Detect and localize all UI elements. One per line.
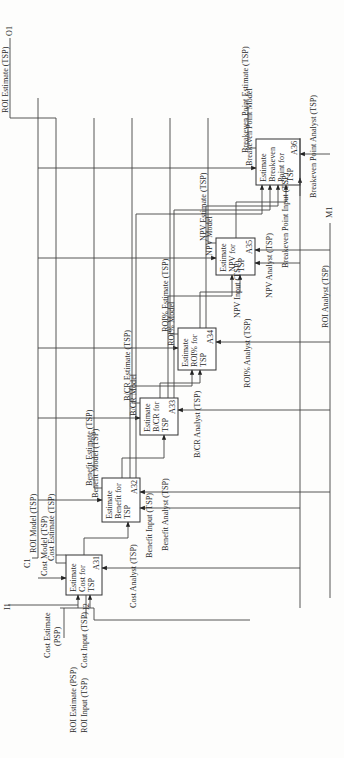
activity-id: A36 xyxy=(290,141,299,155)
label-bcr-analyst-tsp: B/CR Analyst (TSP) xyxy=(193,390,202,458)
svg-text:Cost for: Cost for xyxy=(78,565,87,592)
svg-text:(PSP): (PSP) xyxy=(53,627,62,646)
label-npv-input-tsp: NPV Input (TSP) xyxy=(233,261,242,318)
label-bcr-estimate-tsp: B/CR Estimate (TSP) xyxy=(123,330,132,401)
svg-text:TSP: TSP xyxy=(199,352,208,367)
label-roi-pct-estimate-tsp: ROI% Estimate (TSP) xyxy=(161,259,170,332)
label-cost-estimate-tsp: Cost Estimate (TSP) xyxy=(47,493,56,561)
activity-a31: Estimate Cost for TSP A31 xyxy=(66,555,102,595)
label-roi-input-tsp: ROI Input (TSP) xyxy=(80,678,89,733)
activity-id: A31 xyxy=(92,556,101,570)
svg-text:TSP: TSP xyxy=(123,504,132,519)
svg-text:Estimate: Estimate xyxy=(219,243,228,272)
output-arrows: ROI Estimate (TSP) O1 Breakeven Point Es… xyxy=(1,26,256,153)
activity-a36: Estimate Breakeven Point for TSP A36 xyxy=(256,139,300,185)
svg-text:Benefit for: Benefit for xyxy=(114,483,123,519)
tag-o1: O1 xyxy=(5,26,14,36)
svg-text:Estimate: Estimate xyxy=(69,563,78,592)
label-breakeven-point-analyst-tsp: Breakeven Point Analyst (TSP) xyxy=(309,95,318,198)
activity-a34: Estimate ROI% for TSP A34 xyxy=(178,328,216,370)
label-roi-analyst-tsp: ROI Analyst (TSP) xyxy=(321,265,330,328)
svg-text:TSP: TSP xyxy=(161,417,170,432)
svg-text:TSP: TSP xyxy=(87,577,96,592)
label-cost-input-tsp: Cost Input (TSP) xyxy=(80,612,89,668)
activity-id: A35 xyxy=(245,240,254,254)
svg-text:Estimate: Estimate xyxy=(143,403,152,432)
label-roi-estimate-tsp: ROI Estimate (TSP) xyxy=(1,46,10,113)
label-roi-estimate-psp: ROI Estimate (PSP) xyxy=(69,667,78,733)
label-breakeven-point-input-tsp: Breakeven Point Input (TSP) xyxy=(281,172,290,268)
label-cost-analyst-tsp: Cost Analyst (TSP) xyxy=(129,544,138,608)
tag-i1: I1 xyxy=(3,603,12,610)
svg-text:Breakeven: Breakeven xyxy=(268,147,277,182)
label-benefit-analyst-tsp: Benefit Analyst (TSP) xyxy=(161,478,170,551)
activity-id: A33 xyxy=(168,400,177,414)
idef0-diagram: Estimate Cost for TSP A31 Estimate Benef… xyxy=(0,0,344,758)
input-arrows: I1 I2 ROI Estimate (PSP) ROI Input (TSP)… xyxy=(3,595,250,733)
label-roi-model-tsp: ROI Model (TSP) xyxy=(29,494,38,553)
label-npv-analyst-tsp: NPV Analyst (TSP) xyxy=(265,233,274,298)
svg-text:Estimate: Estimate xyxy=(259,153,268,182)
label-cost-estimate-psp: Cost Estimate xyxy=(43,612,52,658)
label-benefit-estimate-tsp: Benefit Estimate (TSP) xyxy=(85,409,94,486)
svg-text:Estimate: Estimate xyxy=(105,490,114,519)
tag-c1: C1 xyxy=(23,558,32,568)
activity-a33: Estimate B/CR for TSP A33 xyxy=(140,398,178,435)
svg-text:B/CR for: B/CR for xyxy=(152,401,161,432)
label-roi-pct-analyst-tsp: ROI% Analyst (TSP) xyxy=(243,318,252,388)
svg-text:Estimate: Estimate xyxy=(181,338,190,367)
svg-text:ROI% for: ROI% for xyxy=(190,334,199,367)
activity-id: A32 xyxy=(130,480,139,494)
activity-id: A34 xyxy=(206,330,215,344)
label-breakeven-point-estimate-tsp: Breakeven Point Estimate (TSP) xyxy=(241,46,250,153)
label-benefit-input-tsp: Benefit Input (TSP) xyxy=(145,493,154,558)
activity-a32: Estimate Benefit for TSP A32 xyxy=(102,478,140,522)
label-npv-estimate-tsp: NPV Estimate (TSP) xyxy=(199,172,208,241)
tag-m1: M1 xyxy=(325,207,334,218)
